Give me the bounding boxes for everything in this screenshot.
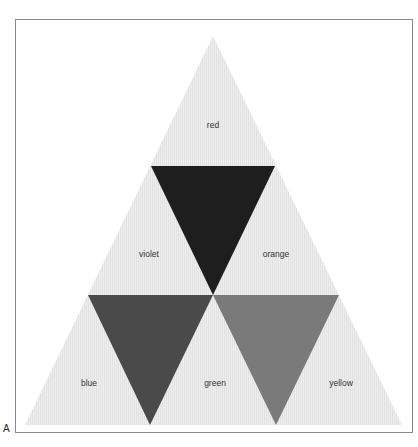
figure-label: A: [3, 423, 10, 434]
region-label-red: red: [207, 120, 220, 130]
region-label-green: green: [204, 378, 226, 388]
color-triangle-diagram: redvioletorangebluegreenyellow: [0, 0, 418, 447]
region-label-violet: violet: [139, 249, 159, 259]
region-label-blue: blue: [81, 378, 97, 388]
region-label-yellow: yellow: [329, 378, 353, 388]
region-label-orange: orange: [263, 249, 290, 259]
